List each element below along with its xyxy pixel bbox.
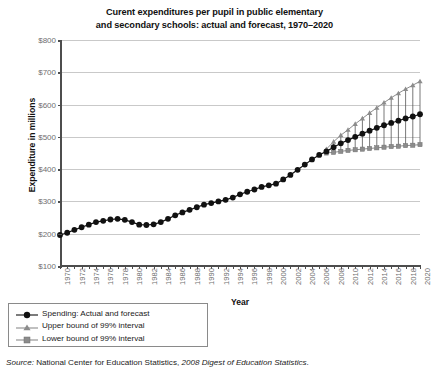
data-point — [201, 202, 207, 208]
x-tick-mark — [319, 265, 320, 269]
x-tick-label: 1972 — [78, 268, 87, 285]
x-tick-mark — [233, 265, 234, 269]
y-tick-mark — [58, 105, 62, 107]
data-point — [151, 221, 157, 227]
chart-series-layer — [60, 40, 420, 266]
y-tick-label: $400 — [4, 165, 56, 174]
y-tick-label: $100 — [4, 262, 56, 271]
x-tick-label: 2004 — [308, 268, 317, 285]
data-point — [216, 199, 222, 205]
data-point — [389, 144, 393, 148]
data-point — [368, 146, 372, 150]
x-tick-label: 1974 — [92, 268, 101, 285]
data-point — [280, 177, 286, 183]
data-point — [404, 143, 408, 147]
legend-label: Upper bound of 99% interval — [40, 321, 145, 330]
data-point — [352, 134, 358, 140]
y-tick-label: $200 — [4, 229, 56, 238]
data-point — [86, 222, 92, 228]
y-tick-label: $500 — [4, 132, 56, 141]
chart-title-line-1: Curent expenditures per pupil in public … — [0, 6, 429, 19]
data-point — [375, 146, 379, 150]
data-point — [360, 147, 364, 151]
data-point — [72, 227, 78, 233]
x-tick-mark — [175, 265, 176, 269]
data-point — [129, 219, 135, 225]
x-tick-mark — [204, 265, 205, 269]
data-point — [396, 118, 402, 124]
x-tick-label: 2018 — [409, 268, 418, 285]
x-tick-label: 1980 — [135, 268, 144, 285]
x-tick-mark — [190, 265, 191, 269]
data-point — [403, 86, 408, 91]
data-point — [194, 204, 200, 210]
x-tick-mark — [406, 265, 407, 269]
x-tick-mark — [377, 265, 378, 269]
data-point — [223, 197, 229, 203]
data-point — [165, 216, 171, 222]
legend-item-upper: Upper bound of 99% interval — [14, 320, 202, 333]
y-tick-label: $300 — [4, 197, 56, 206]
data-point — [332, 150, 336, 154]
y-tick-label: $800 — [4, 36, 56, 45]
data-point — [339, 149, 343, 153]
data-point — [346, 148, 350, 152]
y-tick-mark — [58, 40, 62, 42]
source-prefix: Source: — [6, 358, 34, 367]
data-point — [396, 91, 401, 96]
data-point — [230, 195, 236, 201]
x-tick-mark — [146, 265, 147, 269]
data-point — [302, 162, 308, 168]
data-point — [122, 217, 128, 223]
x-tick-label: 2020 — [423, 268, 432, 285]
x-tick-mark — [103, 265, 104, 269]
data-point — [417, 111, 423, 117]
x-tick-mark — [362, 265, 363, 269]
x-tick-mark — [132, 265, 133, 269]
spending-markers — [57, 111, 423, 238]
x-tick-label: 2012 — [366, 268, 375, 285]
legend-item-lower: Lower bound of 99% interval — [14, 332, 202, 345]
data-point — [381, 122, 387, 128]
x-tick-label: 1992 — [222, 268, 231, 285]
chart-legend: Spending: Actual and forecastUpper bound… — [8, 303, 208, 347]
data-point — [389, 95, 394, 100]
x-tick-mark — [218, 265, 219, 269]
x-tick-label: 2006 — [322, 268, 331, 285]
data-point — [187, 207, 193, 213]
y-tick-label: $700 — [4, 68, 56, 77]
x-tick-mark — [262, 265, 263, 269]
x-tick-label: 1984 — [164, 268, 173, 285]
data-point — [381, 100, 386, 105]
square-marker-icon — [14, 332, 40, 344]
x-tick-label: 1978 — [121, 268, 130, 285]
data-point — [324, 148, 330, 154]
data-point — [396, 144, 400, 148]
upper-bound-markers — [324, 79, 423, 151]
legend-label: Spending: Actual and forecast — [40, 309, 150, 318]
data-point — [309, 157, 315, 163]
data-point — [252, 187, 258, 193]
x-tick-mark — [161, 265, 162, 269]
data-point — [136, 222, 142, 228]
x-tick-label: 1994 — [236, 268, 245, 285]
y-tick-mark — [58, 266, 62, 268]
data-point — [180, 210, 186, 216]
y-tick-mark — [58, 137, 62, 139]
data-point — [418, 143, 422, 147]
data-point — [374, 125, 380, 131]
data-point — [259, 184, 265, 190]
data-point — [411, 143, 415, 147]
data-point — [172, 212, 178, 218]
x-tick-label: 1982 — [150, 268, 159, 285]
data-point — [273, 181, 279, 187]
data-point — [360, 131, 366, 137]
data-point — [353, 148, 357, 152]
spending-line — [60, 114, 420, 235]
x-tick-label: 2016 — [394, 268, 403, 285]
legend-label: Lower bound of 99% interval — [40, 334, 145, 343]
data-point — [367, 128, 373, 134]
y-tick-mark — [58, 201, 62, 203]
chart-title-line-2: and secondary schools: actual and foreca… — [0, 19, 429, 32]
x-tick-mark — [118, 265, 119, 269]
